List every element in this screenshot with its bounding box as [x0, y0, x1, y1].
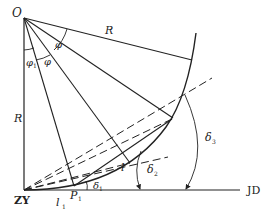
label-phi1: φ — [26, 57, 33, 68]
label-zy: ZY — [14, 194, 30, 207]
radius-to-p2 — [24, 18, 130, 163]
label-delta3: δ — [205, 131, 212, 144]
label-radius-top: R — [104, 24, 113, 37]
delta3-arc — [185, 95, 198, 189]
label-delta1-sub: 1 — [99, 185, 103, 192]
curve-deflection-diagram: O R R φ φ φ 1 l l 1 P 1 δ 1 δ 2 δ 3 ZY J… — [0, 0, 274, 216]
label-delta2-sub: 2 — [154, 170, 158, 177]
label-chord-l1-sub: 1 — [62, 203, 66, 210]
angle-arc-phi1 — [24, 48, 34, 50]
label-phi1-sub: 1 — [33, 62, 37, 69]
label-chord-l: l — [121, 161, 125, 174]
label-p1: P — [69, 189, 78, 202]
label-origin: O — [12, 6, 22, 20]
dashed-chord-3 — [24, 78, 212, 190]
label-radius-left: R — [13, 112, 22, 125]
label-p1-sub: 1 — [78, 195, 82, 202]
dashed-chord-4 — [24, 163, 130, 190]
label-delta3-sub: 3 — [212, 138, 216, 145]
label-jd: JD — [246, 184, 260, 197]
radius-to-p1 — [24, 18, 74, 186]
label-phi-a: φ — [55, 39, 62, 50]
label-delta2: δ — [147, 163, 154, 176]
label-chord-l1: l — [56, 196, 60, 209]
label-phi-b: φ — [44, 56, 51, 67]
radius-to-p3 — [24, 18, 173, 118]
